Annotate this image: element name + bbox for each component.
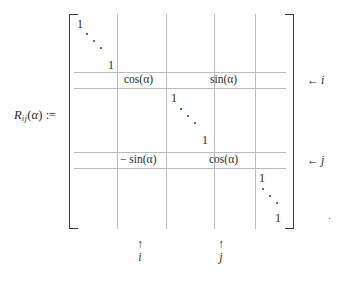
grid-horizontal-rule-4: [74, 168, 286, 169]
left-arrow-icon-row-i: ←: [307, 73, 320, 87]
matrix-entry-cos-alpha-row-j: cos(α): [209, 153, 238, 165]
matrix-ddots-middle: [179, 107, 201, 129]
grid-vertical-rule-2: [166, 14, 167, 229]
row-marker-label-i: i: [321, 73, 324, 87]
matrix-entry-middle-one-lower: 1: [202, 133, 208, 148]
grid-vertical-rule-3: [214, 14, 215, 229]
matrix-entry-middle-one-upper: 1: [171, 91, 177, 106]
matrix-ddots-bottom-right: [261, 187, 283, 209]
matrix-entry-bottom-one-upper: 1: [259, 171, 265, 186]
column-marker-label-j: j: [211, 250, 231, 264]
row-marker-i: ←i: [307, 73, 324, 88]
matrix-entry-top-left-one-lower: 1: [108, 58, 114, 73]
equation-left-hand-side: Rij(α):=: [14, 108, 55, 123]
matrix-entry-top-left-one: 1: [77, 17, 83, 32]
column-marker-label-i: i: [130, 250, 150, 264]
matrix-entry-cos-alpha-row-i: cos(α): [124, 73, 153, 85]
up-arrow-icon-column-i: ↑: [130, 238, 150, 250]
argument-close-paren: ): [38, 108, 42, 122]
grid-horizontal-rule-1: [74, 72, 286, 73]
left-arrow-icon-row-j: ←: [307, 153, 320, 167]
matrix-bracket-left: [69, 14, 78, 229]
grid-vertical-rule-4: [255, 14, 256, 229]
assignment-operator: :=: [46, 108, 56, 122]
figure-canvas: Rij(α):= 1 1 cos(α) sin(α) 1 1 − sin(α) …: [0, 0, 352, 282]
trailing-punctuation: .: [328, 208, 331, 223]
grid-horizontal-rule-2: [74, 88, 286, 89]
up-arrow-icon-column-j: ↑: [211, 238, 231, 250]
grid-vertical-rule-1: [117, 14, 118, 229]
matrix-symbol: R: [14, 108, 22, 122]
matrix-entry-sin-alpha-row-i: sin(α): [210, 73, 237, 85]
row-marker-j: ←j: [307, 153, 324, 168]
column-marker-i: ↑ i: [130, 238, 150, 264]
matrix-entry-bottom-one-lower: 1: [275, 211, 281, 226]
matrix-bracket-right: [285, 14, 294, 229]
matrix-entry-neg-sin-alpha-row-j: − sin(α): [120, 153, 156, 165]
row-marker-label-j: j: [321, 153, 324, 167]
column-marker-j: ↑ j: [211, 238, 231, 264]
matrix-ddots-top-left: [85, 32, 107, 54]
grid-horizontal-rule-3: [74, 152, 286, 153]
